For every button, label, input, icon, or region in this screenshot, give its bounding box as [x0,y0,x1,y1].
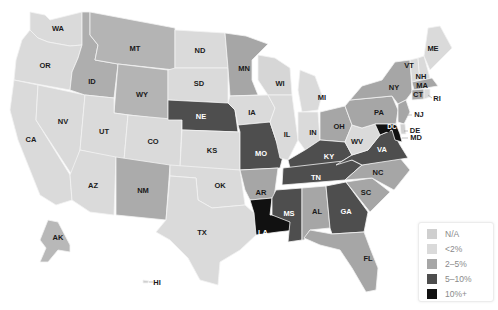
label-ks: KS [207,146,217,155]
label-or: OR [39,61,51,70]
label-sd: SD [194,79,205,88]
label-tn: TN [311,173,321,182]
label-sc: SC [361,188,372,197]
label-co: CO [147,137,158,146]
label-oh: OH [333,122,344,131]
label-id: ID [88,77,96,86]
label-nc: NC [373,168,384,177]
label-fl: FL [363,254,373,263]
label-wy: WY [136,90,148,99]
label-ri: RI [433,94,441,103]
label-al: AL [312,207,322,216]
label-ca: CA [26,135,37,144]
state-de[interactable] [400,124,406,134]
legend-label-lt2: <2% [445,244,462,254]
legend-swatch-lt2 [427,244,437,254]
legend-item-lt2: <2% [427,241,493,256]
label-nh: NH [416,72,427,81]
label-ok: OK [214,181,226,190]
label-tx: TX [197,228,207,237]
legend-label-10plus: 10%+ [445,289,467,299]
state-hi[interactable] [143,280,149,283]
label-ne: NE [196,112,206,121]
label-mi: MI [318,93,326,102]
label-ct: CT [413,90,423,99]
label-ia: IA [248,108,256,117]
label-il: IL [284,130,291,139]
legend-swatch-na [427,229,437,239]
map-legend: N/A <2% 2–5% 5–10% 10%+ [418,222,494,302]
label-dc: DC [387,123,397,130]
label-me: ME [427,44,438,53]
label-hi: HI [153,278,161,287]
legend-item-5to10: 5–10% [427,271,493,286]
state-ri[interactable] [424,89,430,99]
state-ny[interactable] [350,60,412,104]
label-mo: MO [255,149,267,158]
legend-swatch-10plus [427,289,437,299]
state-nj[interactable] [398,100,410,124]
label-va: VA [377,145,387,154]
label-md: MD [410,133,422,142]
label-nv: NV [58,117,68,126]
label-az: AZ [88,181,98,190]
label-ma: MA [416,81,428,90]
legend-swatch-5to10 [427,274,437,284]
label-in: IN [309,128,317,137]
label-ak: AK [53,233,64,242]
legend-label-2to5: 2–5% [445,259,467,269]
state-mt[interactable] [90,12,175,70]
label-wv: WV [351,137,363,146]
label-ga: GA [340,207,352,216]
label-ms: MS [283,209,294,218]
legend-label-na: N/A [445,229,459,239]
label-nm: NM [137,186,149,195]
label-ny: NY [389,83,399,92]
label-wi: WI [275,79,284,88]
label-la: LA [258,228,269,237]
label-ut: UT [99,127,109,136]
legend-item-2to5: 2–5% [427,256,493,271]
label-pa: PA [374,108,384,117]
label-nj: NJ [414,110,424,119]
label-mt: MT [130,44,141,53]
legend-label-5to10: 5–10% [445,274,471,284]
legend-swatch-2to5 [427,259,437,269]
label-nd: ND [195,46,206,55]
state-mi[interactable] [298,70,322,112]
legend-item-10plus: 10%+ [427,286,493,301]
state-wi[interactable] [258,55,292,95]
label-ky: KY [324,152,334,161]
label-wa: WA [52,24,65,33]
label-mn: MN [238,64,250,73]
legend-item-na: N/A [427,226,493,241]
label-ar: AR [256,188,267,197]
label-vt: VT [404,61,414,70]
